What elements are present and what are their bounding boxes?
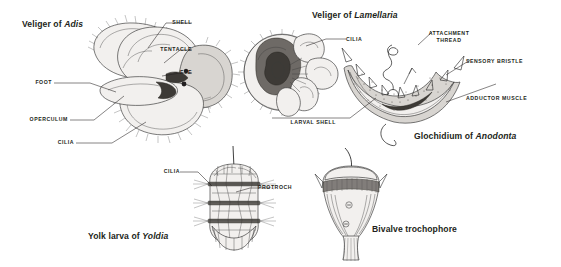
bivalve-trochophore-drawing — [305, 148, 395, 263]
label-sensory-bristle: SENSORY BRISTLE — [466, 58, 523, 64]
label-larval-shell: LARVAL SHELL — [270, 119, 336, 125]
label-cilia-yoldia: CILIA — [140, 168, 180, 174]
label-adductor-muscle: ADDUCTOR MUSCLE — [466, 95, 527, 101]
label-foot: FOOT — [14, 79, 52, 85]
label-attachment-thread-line1: ATTACHMENT — [414, 30, 484, 36]
figure-title-yolk-larva: Yolk larva of Yoldia — [88, 231, 168, 241]
label-shell: SHELL — [132, 19, 192, 25]
title-prefix: Yolk larva of — [88, 231, 142, 241]
title-genus: Yoldia — [142, 231, 168, 241]
larval-forms-plate: Veliger of Adis — [0, 0, 561, 267]
label-cilia-adis: CILIA — [26, 139, 74, 145]
label-operculum: OPERCULUM — [4, 116, 68, 122]
label-protroch: PROTROCH — [258, 184, 292, 190]
title-genus: Lamellaria — [354, 10, 398, 20]
label-attachment-thread-line2: THREAD — [414, 37, 484, 43]
label-eye: EYE — [142, 69, 192, 75]
trochophore-body — [315, 166, 387, 261]
label-tentacle: TENTACLE — [122, 46, 192, 52]
basal-tuft — [343, 236, 359, 261]
yoldia-leaders — [150, 166, 280, 226]
